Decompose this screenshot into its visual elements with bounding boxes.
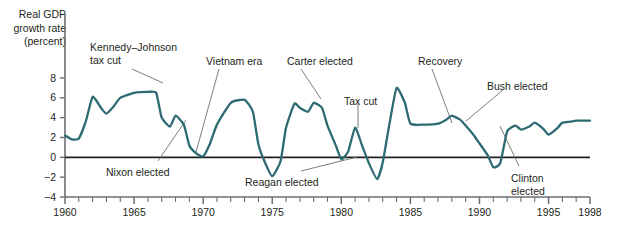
annotation-recovery: Recovery: [418, 55, 462, 68]
annotation-carter-elected: Carter elected: [287, 55, 353, 68]
annotation-vietnam-era-line-1: Vietnam era: [206, 55, 262, 68]
svg-text:1970: 1970: [191, 206, 215, 218]
svg-text:−4: −4: [44, 191, 56, 203]
gdp-growth-line-chart: −4−202468 196019651970197519801985199019…: [0, 0, 630, 235]
annotation-bush-elected-line-1: Bush elected: [487, 80, 548, 93]
annotation-carter-elected-line-1: Carter elected: [287, 55, 353, 68]
svg-text:8: 8: [50, 72, 56, 84]
annotation-nixon-elected: Nixon elected: [106, 166, 170, 179]
chart-figure: Real GDP growth rate (percent) −4−202468…: [0, 0, 630, 235]
svg-text:1960: 1960: [53, 206, 77, 218]
svg-text:1975: 1975: [261, 206, 285, 218]
annotation-kennedy-johnson-tax-cut-line-1: Kennedy–Johnson: [90, 41, 177, 54]
annotation-reagan-elected-line-1: Reagan elected: [245, 176, 319, 189]
y-axis-tick-labels: −4−202468: [44, 72, 56, 203]
svg-text:4: 4: [50, 111, 56, 123]
svg-text:1980: 1980: [330, 206, 354, 218]
svg-text:1998: 1998: [578, 206, 602, 218]
leader-line-kennedy-johnson-tax-cut: [132, 69, 163, 83]
annotation-clinton-elected-line-1: Clinton: [511, 172, 545, 185]
svg-text:1990: 1990: [468, 206, 492, 218]
annotation-clinton-elected: Clintonelected: [511, 172, 545, 198]
leader-line-reagan-elected: [301, 157, 357, 171]
svg-text:−2: −2: [44, 171, 56, 183]
annotation-tax-cut-line-1: Tax cut: [344, 95, 377, 108]
svg-text:6: 6: [50, 91, 56, 103]
x-axis-tick-labels: 196019651970197519801985199019951998: [53, 206, 602, 218]
annotation-nixon-elected-line-1: Nixon elected: [106, 166, 170, 179]
annotation-recovery-line-1: Recovery: [418, 55, 462, 68]
leader-line-bush-elected: [466, 90, 503, 121]
annotation-vietnam-era: Vietnam era: [206, 55, 262, 68]
annotation-tax-cut: Tax cut: [344, 95, 377, 108]
annotation-bush-elected: Bush elected: [487, 80, 548, 93]
leader-line-carter-elected: [301, 69, 321, 99]
svg-text:1985: 1985: [399, 206, 423, 218]
svg-text:1965: 1965: [122, 206, 146, 218]
annotation-kennedy-johnson-tax-cut-line-2: tax cut: [90, 54, 177, 67]
leader-line-vietnam-era: [196, 69, 219, 152]
annotation-reagan-elected: Reagan elected: [245, 176, 319, 189]
x-axis-minor-ticks: [65, 197, 590, 204]
svg-text:2: 2: [50, 131, 56, 143]
leader-line-nixon-elected: [158, 120, 186, 161]
annotation-kennedy-johnson-tax-cut: Kennedy–Johnsontax cut: [90, 41, 177, 67]
svg-text:0: 0: [50, 151, 56, 163]
leader-line-recovery: [432, 69, 452, 123]
annotation-clinton-elected-line-2: elected: [511, 185, 545, 198]
svg-text:1995: 1995: [537, 206, 561, 218]
